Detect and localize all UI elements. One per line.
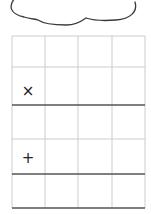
grid-table — [0, 0, 151, 214]
plus-mark-icon: + — [21, 151, 35, 165]
cross-mark-icon: × — [21, 84, 35, 98]
